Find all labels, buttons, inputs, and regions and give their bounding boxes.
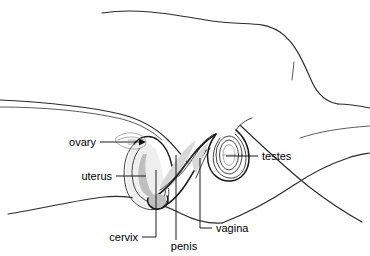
label-cervix: cervix xyxy=(109,231,138,243)
diagram-background xyxy=(0,0,370,256)
label-penis: penis xyxy=(171,240,198,252)
label-testes: testes xyxy=(262,150,292,162)
diagram-canvas: ovary uterus cervix penis vagina testes xyxy=(0,0,370,256)
anatomical-diagram: ovary uterus cervix penis vagina testes xyxy=(0,0,370,256)
label-uterus: uterus xyxy=(81,170,112,182)
label-vagina: vagina xyxy=(216,222,249,234)
label-ovary: ovary xyxy=(69,136,96,148)
